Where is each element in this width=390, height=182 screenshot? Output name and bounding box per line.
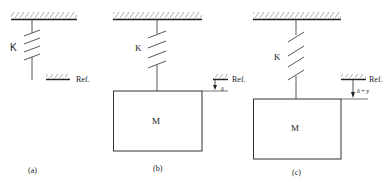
panel-caption: (b) — [153, 164, 163, 173]
displacement-label: δ + y — [357, 88, 369, 94]
panel-caption: (a) — [28, 166, 37, 175]
ceiling-support — [11, 12, 77, 20]
reference-label: Ref. — [76, 75, 90, 84]
reference-label: Ref. — [369, 75, 383, 84]
reference-marker — [341, 74, 368, 99]
spring-label: K — [274, 52, 281, 62]
mass-label: M — [152, 116, 160, 126]
displacement-label: δ — [221, 86, 224, 92]
spring-label: K — [135, 43, 142, 53]
spring — [288, 20, 304, 100]
spring-label: K — [10, 42, 17, 53]
spring — [24, 20, 40, 81]
spring — [148, 20, 166, 92]
panel-a: K Ref. (a) — [10, 12, 90, 175]
reference-marker — [46, 74, 70, 80]
panel-caption: (c) — [292, 168, 301, 177]
reference-label: Ref. — [232, 75, 246, 84]
ceiling-support — [253, 12, 341, 20]
spring-mass-diagram: K Ref. (a) K M — [0, 0, 390, 182]
mass-label: M — [291, 123, 299, 133]
panel-c: K M Ref. δ + y (c) — [253, 12, 383, 177]
ceiling-support — [113, 12, 202, 20]
panel-b: K M Ref. δ (b) — [113, 12, 246, 173]
displacement-arrow — [213, 80, 217, 91]
displacement-arrow — [351, 80, 355, 99]
